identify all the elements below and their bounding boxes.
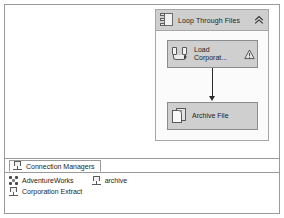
connection-icon bbox=[13, 161, 22, 171]
file-system-task-icon bbox=[172, 108, 187, 124]
tab-connection-managers[interactable]: Connection Managers bbox=[9, 160, 101, 172]
precedence-constraint-line[interactable] bbox=[212, 68, 213, 98]
tab-label: Connection Managers bbox=[26, 163, 95, 170]
connection-icon-base bbox=[92, 184, 101, 185]
loop-icon-bar bbox=[160, 18, 165, 21]
file-connection-icon bbox=[9, 187, 18, 197]
db-icon-node bbox=[15, 176, 18, 179]
connection-adventureworks[interactable]: AdventureWorks bbox=[9, 176, 74, 185]
connection-row: Corporation Extract bbox=[9, 186, 279, 197]
connection-label: Corporation Extract bbox=[22, 188, 82, 195]
db-icon-node bbox=[15, 182, 18, 185]
data-flow-task-icon bbox=[172, 46, 189, 62]
ole-db-connection-icon bbox=[9, 176, 18, 185]
task-load-corporate[interactable]: Load Corporat... bbox=[167, 40, 258, 68]
connection-corporation-extract[interactable]: Corporation Extract bbox=[9, 187, 82, 197]
warning-icon bbox=[244, 49, 255, 60]
control-flow-design-surface[interactable]: Loop Through Files bbox=[5, 5, 279, 158]
connection-managers-list[interactable]: AdventureWorks archive bbox=[5, 173, 279, 197]
connection-managers-panel: Connection Managers AdventureWorks bbox=[5, 158, 279, 213]
task-archive-file[interactable]: Archive File bbox=[167, 102, 258, 130]
dataflow-icon-pipe bbox=[172, 47, 177, 55]
precedence-constraint-arrow bbox=[209, 96, 215, 101]
connection-archive[interactable]: archive bbox=[92, 176, 128, 186]
foreach-loop-container[interactable]: Loop Through Files bbox=[155, 9, 269, 141]
db-icon-node bbox=[12, 179, 15, 182]
ssis-designer-window: Loop Through Files bbox=[4, 4, 280, 214]
connection-row: AdventureWorks archive bbox=[9, 175, 279, 186]
chevron-double-up-icon[interactable] bbox=[253, 14, 265, 26]
file-connection-icon bbox=[92, 176, 101, 186]
connection-managers-tabstrip: Connection Managers bbox=[5, 159, 279, 173]
db-icon-node bbox=[9, 182, 12, 185]
loop-icon-bar bbox=[160, 23, 165, 26]
container-body[interactable]: Load Corporat... bbox=[156, 31, 268, 140]
task-label: Archive File bbox=[192, 112, 255, 121]
task-label: Load Corporat... bbox=[194, 46, 244, 63]
foreach-loop-container-icon bbox=[160, 13, 173, 27]
connection-label: archive bbox=[105, 177, 128, 184]
dataflow-icon-arrow bbox=[184, 55, 187, 59]
dataflow-icon-pipe bbox=[182, 47, 187, 55]
connection-icon-base bbox=[9, 195, 18, 196]
container-title: Loop Through Files bbox=[178, 17, 253, 24]
file-icon-fold bbox=[178, 110, 182, 114]
connection-icon-base bbox=[13, 169, 22, 170]
container-header[interactable]: Loop Through Files bbox=[156, 10, 268, 31]
loop-icon-bar bbox=[160, 13, 165, 16]
loop-icon-sheet bbox=[164, 13, 173, 26]
connection-label: AdventureWorks bbox=[22, 177, 74, 184]
